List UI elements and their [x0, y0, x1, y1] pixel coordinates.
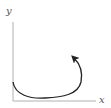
x-axis-label: x — [99, 94, 105, 105]
y-axis-label: y — [5, 5, 12, 16]
curve-with-arrow — [13, 58, 82, 98]
diagram: y x — [0, 0, 111, 108]
